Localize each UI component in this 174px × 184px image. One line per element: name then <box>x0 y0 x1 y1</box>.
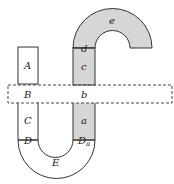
dashed-band <box>8 85 172 103</box>
s-bend-diagram: e d c A B b C a D Da E <box>0 0 174 184</box>
label-Da-main: D <box>77 135 86 146</box>
label-B: B <box>23 89 31 100</box>
label-e: e <box>109 15 115 26</box>
label-A: A <box>23 60 31 71</box>
label-a: a <box>81 115 87 126</box>
label-E: E <box>51 157 60 168</box>
label-d: d <box>81 43 87 54</box>
label-c: c <box>81 61 87 72</box>
label-b: b <box>81 89 87 100</box>
label-D: D <box>23 135 32 146</box>
label-C: C <box>24 115 32 126</box>
label-Da-sub: a <box>86 140 90 148</box>
